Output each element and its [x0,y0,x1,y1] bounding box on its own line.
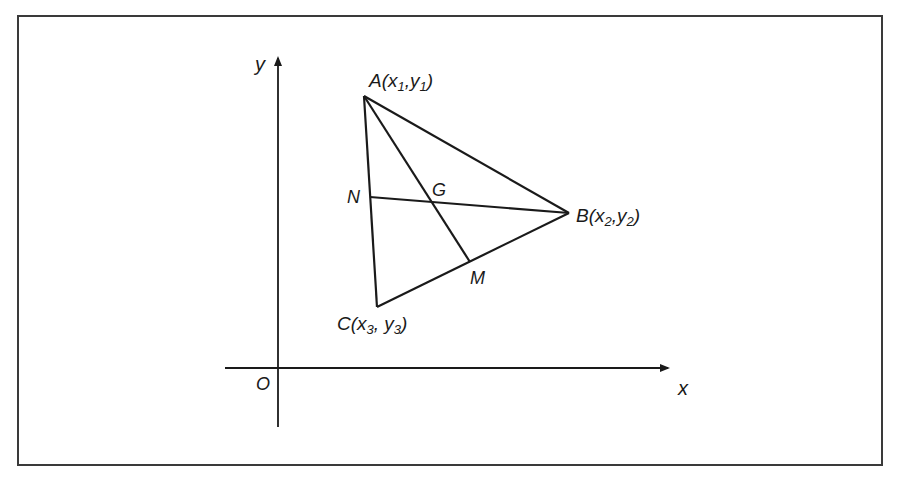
vertex-a-label: A(x1,y1) [368,70,433,94]
median-am [364,96,470,262]
vertex-b-label: B(x2,y2) [576,205,640,229]
median-bn [370,197,569,213]
origin-label: O [256,374,270,394]
triangle-diagram: y x O A(x1,y1) B(x2,y2) C(x3, y3) N G M [0,0,900,480]
x-axis-label: x [677,377,689,399]
side-ca [364,96,377,307]
point-m-label: M [470,268,485,288]
point-g-label: G [432,180,446,200]
y-axis-label: y [253,53,266,75]
side-bc [377,213,569,307]
vertex-c-label: C(x3, y3) [337,313,407,337]
side-ab [364,96,569,213]
point-n-label: N [347,187,361,207]
